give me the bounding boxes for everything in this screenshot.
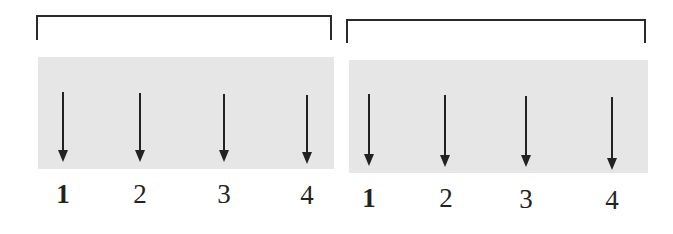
down-arrow-icon bbox=[605, 97, 619, 170]
gray-panel bbox=[349, 60, 648, 173]
down-arrow-icon bbox=[519, 96, 533, 167]
down-arrow-icon bbox=[300, 95, 314, 164]
position-label: 1 bbox=[354, 185, 384, 212]
position-label: 1 bbox=[48, 181, 78, 208]
down-arrow-icon bbox=[362, 94, 376, 166]
down-arrow-icon bbox=[56, 92, 70, 162]
bracket bbox=[36, 15, 332, 40]
position-label: 4 bbox=[597, 187, 627, 214]
position-label: 2 bbox=[125, 181, 155, 208]
down-arrow-icon bbox=[133, 93, 147, 162]
position-label: 3 bbox=[209, 181, 239, 208]
position-label: 3 bbox=[511, 186, 541, 213]
gray-panel bbox=[38, 57, 334, 169]
down-arrow-icon bbox=[438, 95, 452, 167]
down-arrow-icon bbox=[217, 94, 231, 162]
position-label: 2 bbox=[431, 185, 461, 212]
position-label: 4 bbox=[292, 182, 322, 209]
bracket bbox=[346, 19, 646, 43]
